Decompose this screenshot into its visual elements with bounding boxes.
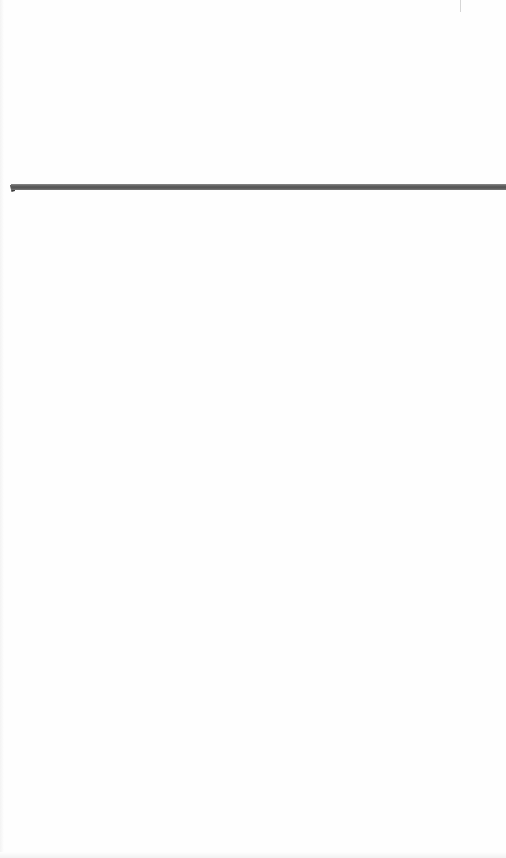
page-edge-bottom — [0, 852, 506, 858]
top-tick-mark — [460, 0, 461, 12]
horizontal-rule — [11, 184, 506, 190]
document-page — [0, 0, 506, 858]
page-edge-left — [0, 0, 4, 858]
